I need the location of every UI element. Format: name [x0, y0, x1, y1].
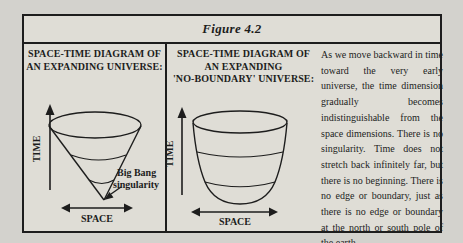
left-heading-line1: SPACE-TIME DIAGRAM OF — [24, 48, 165, 61]
time-axis-label: TIME — [31, 135, 42, 162]
left-panel-heading: SPACE-TIME DIAGRAM OF AN EXPANDING UNIVE… — [24, 44, 165, 73]
middle-heading-line2: AN EXPANDING — [167, 61, 320, 74]
cone-spacetime-diagram: TIME Big Bang singularity SPACE — [24, 74, 165, 231]
figure-box: Figure 4.2 SPACE-TIME DIAGRAM OF AN EXPA… — [22, 14, 442, 233]
middle-heading-line1: SPACE-TIME DIAGRAM OF — [167, 48, 320, 61]
figure-content: SPACE-TIME DIAGRAM OF AN EXPANDING UNIVE… — [24, 44, 440, 231]
panel-expanding-universe: SPACE-TIME DIAGRAM OF AN EXPANDING UNIVE… — [24, 44, 167, 231]
bowl-spacetime-diagram: TIME SPACE — [167, 84, 320, 231]
time-axis-arrow — [46, 104, 55, 190]
left-heading-line2: AN EXPANDING UNIVERSE: — [24, 61, 165, 74]
big-bang-label-line1: Big Bang — [117, 167, 156, 178]
space-axis-label: SPACE — [81, 213, 113, 224]
figure-description: As we move backward in time toward the v… — [321, 44, 443, 234]
space-axis-arrow — [61, 204, 133, 213]
panel-no-boundary-universe: SPACE-TIME DIAGRAM OF AN EXPANDING 'NO-B… — [167, 44, 320, 231]
space-axis-label: SPACE — [219, 216, 251, 227]
time-axis-arrow — [178, 107, 187, 195]
figure-title: Figure 4.2 — [24, 16, 440, 44]
time-axis-label: TIME — [167, 140, 175, 167]
bowl-shape — [193, 111, 287, 204]
middle-panel-heading: SPACE-TIME DIAGRAM OF AN EXPANDING 'NO-B… — [167, 44, 320, 86]
